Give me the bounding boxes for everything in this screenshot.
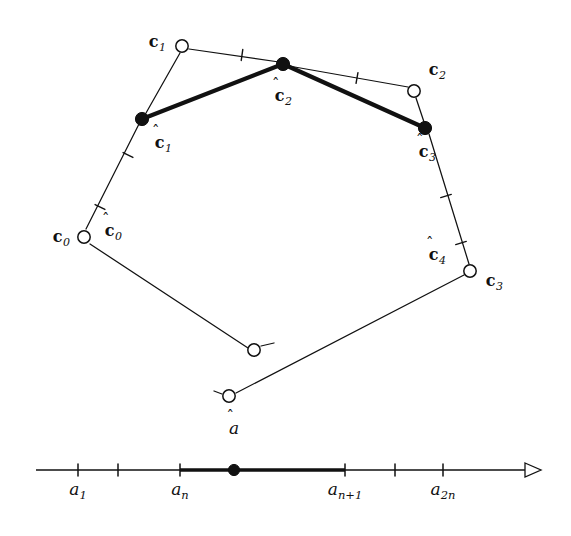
figure-root: c0c1c2c3̂c0̂c1̂c2̂c3̂c4a1anan+1a2n̂a [0,0,571,536]
polygon-edge [236,275,464,393]
axis-arrow-icon [525,463,541,477]
figure-canvas [0,0,571,536]
parameter-axis [36,463,541,477]
label-c0: c0 [53,229,70,245]
polygon-edge-ticks [95,50,466,245]
polygon-edge [189,49,279,62]
vertex-hit-c1[interactable] [172,36,192,56]
vertex-hit-chat3[interactable] [415,118,435,138]
vertex-hit-c2[interactable] [404,81,424,101]
polygon-edge [86,124,139,229]
edge-tick-mark [241,50,243,61]
label-c3: c3 [486,273,503,289]
vertex-hit-c4[interactable] [244,340,264,360]
edge-tick-mark [441,194,452,197]
vertex-hit-ahat[interactable] [224,460,244,480]
axis-tick-label-5: a2n [431,481,456,498]
label-chat0: ̂c0 [105,223,122,239]
vertex-hit-c0[interactable] [74,227,94,247]
vertex-hit-chat1[interactable] [132,109,152,129]
edge-tick-mark [356,73,358,84]
axis-tick-label-2: an [171,481,189,498]
edge-tick-mark [456,241,467,244]
label-chat1: ̂c1 [155,135,172,151]
polygon-edge [90,244,248,348]
axis-tick-label-3: an+1 [328,481,363,498]
label-c1: c1 [149,34,166,50]
vertex-hit-c5[interactable] [219,386,239,406]
label-ahat: ̂a [229,420,239,437]
axis-tick-label-0: a1 [69,481,86,498]
label-c2: c2 [429,62,446,78]
vertex-hit-c3[interactable] [460,261,480,281]
label-chat3: ̂c3 [419,144,436,160]
label-chat2: ̂c2 [275,88,292,104]
vertex-hit-chat2[interactable] [273,54,293,74]
edge-tick-mark [123,153,133,158]
label-chat4: ̂c4 [429,247,446,263]
